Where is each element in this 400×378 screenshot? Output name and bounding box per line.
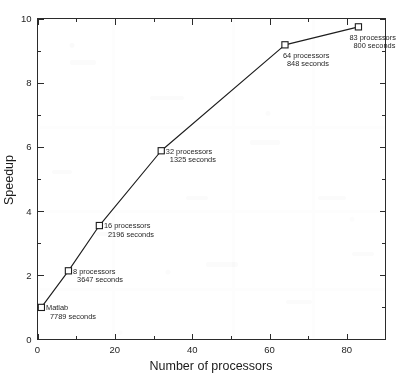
data-point-marker-3 (158, 148, 164, 154)
data-point-marker-0 (38, 304, 44, 310)
speedup-line (41, 27, 358, 308)
speedup-chart: 0204060800246810 Matlab7789 seconds8 pro… (0, 0, 400, 378)
annotation-seconds: 848 seconds (287, 59, 329, 68)
chart-svg: 0204060800246810 Matlab7789 seconds8 pro… (0, 0, 400, 378)
data-point-marker-4 (282, 42, 288, 48)
point-annotation-3: 32 processors1325 seconds (166, 147, 216, 165)
x-tick-label: 40 (187, 344, 198, 355)
annotation-seconds: 800 seconds (353, 41, 395, 50)
point-annotation-1: 8 processors3647 seconds (73, 267, 123, 285)
x-axis-title: Number of processors (150, 359, 273, 373)
point-annotations: Matlab7789 seconds8 processors3647 secon… (46, 33, 396, 321)
y-tick-label: 8 (26, 77, 31, 88)
annotation-seconds: 3647 seconds (77, 275, 123, 284)
point-annotation-0: Matlab7789 seconds (46, 303, 96, 321)
annotation-seconds: 7789 seconds (50, 312, 96, 321)
y-tick-label: 2 (26, 270, 31, 281)
axis-ticks (38, 19, 386, 340)
y-axis-title: Speedup (2, 155, 16, 205)
x-tick-label: 60 (264, 344, 275, 355)
y-tick-label: 6 (26, 141, 31, 152)
y-tick-label: 0 (26, 334, 31, 345)
point-annotation-4: 64 processors848 seconds (283, 51, 330, 69)
y-tick-label: 10 (21, 13, 32, 24)
point-annotation-5: 83 processors800 seconds (349, 33, 396, 51)
y-tick-label: 4 (26, 206, 31, 217)
data-point-marker-2 (96, 222, 102, 228)
annotation-seconds: 2196 seconds (108, 230, 154, 239)
x-tick-label: 20 (110, 344, 121, 355)
data-point-marker-1 (65, 268, 71, 274)
point-annotation-2: 16 processors2196 seconds (104, 221, 154, 239)
data-point-marker-5 (355, 24, 361, 30)
annotation-seconds: 1325 seconds (170, 155, 216, 164)
plot-frame (38, 19, 386, 340)
x-tick-label: 0 (35, 344, 40, 355)
x-tick-label: 80 (342, 344, 353, 355)
